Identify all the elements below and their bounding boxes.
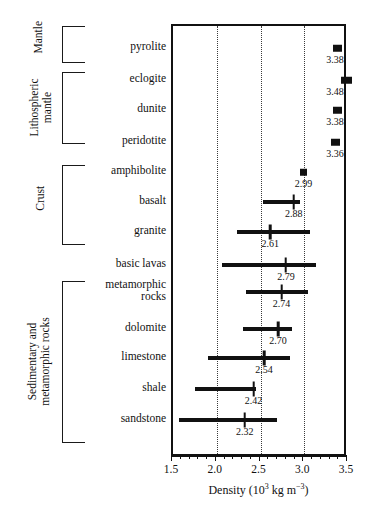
point-marker	[341, 77, 352, 84]
x-tick-3-0	[302, 455, 303, 461]
x-minor-tick	[241, 455, 242, 459]
density-chart-figure: MantleLithospheric mantleCrustSedimentar…	[0, 0, 370, 513]
axis-title-text: )	[305, 483, 309, 497]
row-label-dunite: dunite	[0, 102, 166, 114]
gridline-3	[304, 26, 305, 454]
plot-area: 3.383.483.383.362.992.882.612.792.742.70…	[171, 24, 346, 456]
row-label-cell: amphibolite	[0, 164, 166, 176]
row-label-peridotite: peridotite	[0, 134, 166, 146]
x-minor-tick	[180, 455, 181, 459]
x-minor-tick	[206, 455, 207, 459]
point-marker	[331, 139, 340, 146]
point-marker	[300, 169, 307, 176]
x-minor-tick	[189, 455, 190, 459]
row-label-cell: limestone	[0, 350, 166, 362]
point-marker	[333, 45, 342, 52]
x-minor-tick	[276, 455, 277, 459]
x-minor-tick	[320, 455, 321, 459]
row-label-cell: dolomite	[0, 321, 166, 333]
row-label-granite: granite	[0, 224, 166, 236]
row-label-dolomite: dolomite	[0, 321, 166, 333]
x-minor-tick	[250, 455, 251, 459]
x-minor-tick	[294, 455, 295, 459]
row-label-cell: metamorphic rocks	[0, 278, 166, 302]
axis-title-text: Density (10	[208, 483, 264, 497]
row-label-cell: granite	[0, 224, 166, 236]
row-label-cell: pyrolite	[0, 40, 166, 52]
row-label-cell: dunite	[0, 102, 166, 114]
range-bar	[195, 387, 256, 391]
value-label: 3.48	[326, 87, 344, 97]
value-label: 2.54	[255, 365, 273, 375]
row-label-basic-lavas: basic lavas	[0, 257, 166, 269]
x-tick-label-1-5: 1.5	[164, 463, 178, 475]
value-label: 2.79	[277, 272, 295, 282]
x-minor-tick	[311, 455, 312, 459]
x-tick-3-5	[346, 455, 347, 461]
value-label: 2.42	[245, 396, 263, 406]
x-minor-tick	[285, 455, 286, 459]
x-minor-tick	[329, 455, 330, 459]
x-tick-2-0	[215, 455, 216, 461]
row-label-cell: shale	[0, 381, 166, 393]
value-label: 2.88	[285, 209, 303, 219]
x-minor-tick	[267, 455, 268, 459]
x-minor-tick	[224, 455, 225, 459]
x-tick-label-2-5: 2.5	[251, 463, 265, 475]
value-label: 3.36	[326, 149, 344, 159]
row-label-cell: basalt	[0, 194, 166, 206]
value-label: 3.38	[326, 117, 344, 127]
x-minor-tick	[197, 455, 198, 459]
row-label-metamorphic-rocks: metamorphic rocks	[0, 278, 166, 302]
range-bar	[179, 418, 277, 422]
row-label-eclogite: eclogite	[0, 72, 166, 84]
row-label-pyrolite: pyrolite	[0, 40, 166, 52]
x-tick-label-2-0: 2.0	[208, 463, 222, 475]
range-bar	[208, 356, 290, 360]
value-label: 2.74	[273, 299, 291, 309]
x-minor-tick	[232, 455, 233, 459]
row-label-basalt: basalt	[0, 194, 166, 206]
value-label: 2.32	[236, 427, 254, 437]
value-label: 2.99	[295, 179, 313, 189]
range-bar	[222, 263, 316, 267]
row-label-limestone: limestone	[0, 350, 166, 362]
row-label-amphibolite: amphibolite	[0, 164, 166, 176]
row-label-cell: basic lavas	[0, 257, 166, 269]
axis-title-exponent: −3	[296, 482, 305, 491]
row-label-cell: eclogite	[0, 72, 166, 84]
value-label: 2.70	[269, 336, 287, 346]
axis-title-text: kg m	[269, 483, 296, 497]
range-bar	[237, 230, 311, 234]
row-label-cell: peridotite	[0, 134, 166, 146]
x-minor-tick	[337, 455, 338, 459]
point-marker	[333, 107, 342, 114]
x-tick-label-3-0: 3.0	[295, 463, 309, 475]
row-label-shale: shale	[0, 381, 166, 393]
row-label-cell: sandstone	[0, 412, 166, 424]
x-tick-label-3-5: 3.5	[339, 463, 353, 475]
value-label: 3.38	[326, 55, 344, 65]
x-axis-title: Density (103 kg m−3)	[171, 482, 346, 498]
range-bar	[243, 327, 292, 331]
x-tick-2-5	[259, 455, 260, 461]
value-label: 2.61	[261, 239, 279, 249]
range-bar	[246, 290, 308, 294]
x-tick-1-5	[171, 455, 172, 461]
row-label-sandstone: sandstone	[0, 412, 166, 424]
